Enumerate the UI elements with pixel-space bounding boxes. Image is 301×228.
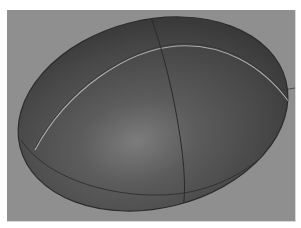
ellipsoid-body[interactable] [7,10,295,221]
screenshot-frame [0,0,301,228]
ellipsoid-render-icon [7,10,295,221]
3d-viewport[interactable] [7,10,296,222]
